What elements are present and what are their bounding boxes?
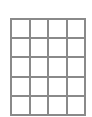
grid-cell	[30, 19, 49, 38]
grid-cell	[48, 19, 67, 38]
grid-cell	[48, 38, 67, 57]
grid-cell	[67, 57, 86, 76]
grid-cell	[67, 77, 86, 96]
grid-cell	[30, 38, 49, 57]
grid-cell	[67, 96, 86, 115]
grid-cell	[11, 19, 30, 38]
grid-cell	[30, 57, 49, 76]
grid-cell	[67, 38, 86, 57]
grid-icon	[10, 18, 86, 116]
grid-cell	[48, 96, 67, 115]
grid-cell	[11, 96, 30, 115]
grid-cell	[11, 38, 30, 57]
grid-cell	[48, 57, 67, 76]
grid-cell	[30, 96, 49, 115]
grid-cell	[30, 77, 49, 96]
grid-cell	[48, 77, 67, 96]
grid-cell	[67, 19, 86, 38]
grid-cell	[11, 57, 30, 76]
grid-cell	[11, 77, 30, 96]
